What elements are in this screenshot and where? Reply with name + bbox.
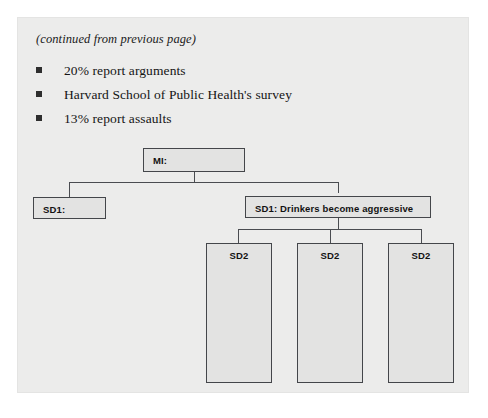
node-label: MI: [153, 155, 167, 166]
square-bullet-icon [36, 91, 42, 97]
list-item-label: 13% report assaults [64, 111, 172, 126]
node-sd1-right: SD1: Drinkers become aggressive [245, 196, 431, 218]
connector-to-sd1-right [338, 182, 339, 193]
node-sd2-third: SD2 [388, 243, 454, 383]
node-label: SD2 [230, 250, 249, 261]
connector-level2-bus [238, 229, 421, 230]
list-item: 20% report arguments [36, 58, 446, 82]
connector-to-sd2-2 [330, 229, 331, 243]
connector-to-sd2-3 [421, 229, 422, 243]
connector-sd1-right-trunk [338, 218, 339, 230]
slide-panel: (continued from previous page) 20% repor… [18, 18, 468, 392]
node-label: SD2 [321, 250, 340, 261]
node-mi-root: MI: [143, 148, 245, 172]
node-sd2-second: SD2 [297, 243, 363, 383]
continued-from-previous-page-note: (continued from previous page) [36, 32, 196, 47]
list-item-label: Harvard School of Public Health's survey [64, 87, 292, 102]
connector-root-trunk [194, 172, 195, 183]
screenshot-root: (continued from previous page) 20% repor… [0, 0, 488, 418]
connector-to-sd1-left [69, 182, 70, 197]
connector-level1-bus [69, 182, 339, 183]
connector-to-sd2-1 [238, 229, 239, 243]
list-item-label: 20% report arguments [64, 63, 186, 78]
node-sd2-first: SD2 [206, 243, 272, 383]
node-sd1-left: SD1: [33, 197, 106, 219]
node-label: SD1: Drinkers become aggressive [255, 203, 413, 214]
square-bullet-icon [36, 67, 42, 73]
list-item: 13% report assaults [36, 106, 446, 130]
square-bullet-icon [36, 115, 42, 121]
bullet-list: 20% report arguments Harvard School of P… [36, 58, 446, 130]
list-item: Harvard School of Public Health's survey [36, 82, 446, 106]
node-label: SD1: [43, 204, 65, 215]
node-label: SD2 [412, 250, 431, 261]
